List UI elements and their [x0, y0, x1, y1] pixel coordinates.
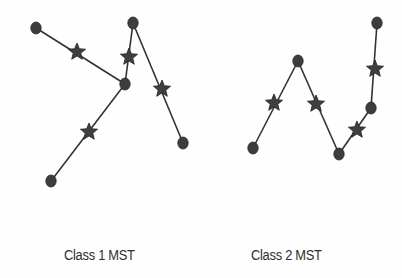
- mst-node: [366, 102, 376, 114]
- mst-diagram-canvas: [0, 0, 402, 278]
- edge-midpoint-star-icon: [80, 123, 97, 139]
- mst-node: [128, 17, 138, 29]
- mst-node: [248, 142, 258, 154]
- class-2-mst-label: Class 2 MST: [251, 247, 322, 263]
- mst-comparison-figure: Class 1 MST Class 2 MST: [0, 0, 402, 278]
- edge-midpoint-star-icon: [366, 60, 383, 76]
- mst-node: [31, 22, 41, 34]
- mst-node: [46, 175, 56, 187]
- mst-node: [293, 55, 303, 67]
- mst-node: [334, 148, 344, 160]
- class-2-mst-graph: [248, 17, 384, 160]
- edge-midpoint-star-icon: [348, 121, 365, 137]
- mst-node: [178, 137, 188, 149]
- class-1-mst-graph: [31, 17, 188, 187]
- edge-midpoint-star-icon: [307, 95, 324, 111]
- mst-edge: [133, 23, 183, 143]
- mst-node: [372, 17, 382, 29]
- mst-node: [120, 78, 130, 90]
- class-1-mst-label: Class 1 MST: [64, 247, 135, 263]
- edge-midpoint-star-icon: [120, 48, 137, 64]
